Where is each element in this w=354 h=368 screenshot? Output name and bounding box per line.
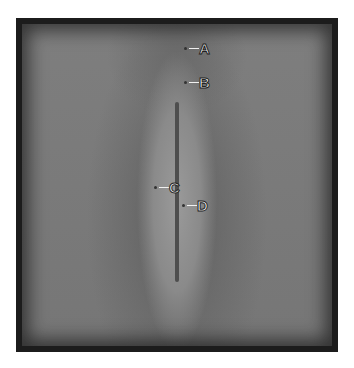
- label-b: B: [184, 75, 210, 90]
- label-point: [184, 81, 187, 84]
- label-d: D: [182, 198, 208, 213]
- label-point: [154, 186, 157, 189]
- label-letter: A: [199, 41, 210, 56]
- leader-line: [189, 82, 199, 83]
- leader-line: [159, 187, 169, 188]
- photograph: A B C D: [22, 24, 332, 346]
- label-point: [184, 47, 187, 50]
- label-a: A: [184, 41, 210, 56]
- label-letter: C: [169, 180, 180, 195]
- label-letter: B: [199, 75, 210, 90]
- leader-line: [189, 48, 199, 49]
- label-point: [182, 204, 185, 207]
- photo-frame: A B C D: [16, 18, 338, 352]
- leader-line: [187, 205, 197, 206]
- label-c: C: [154, 180, 180, 195]
- label-letter: D: [197, 198, 208, 213]
